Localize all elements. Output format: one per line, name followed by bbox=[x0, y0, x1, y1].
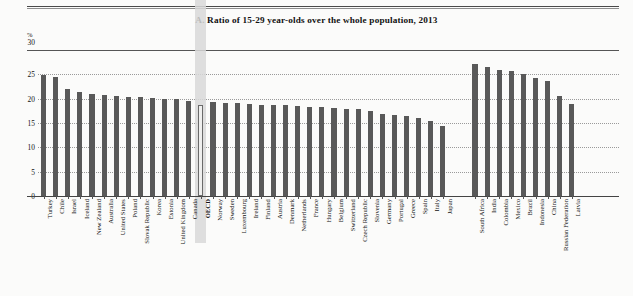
bar-netherlands bbox=[295, 106, 300, 196]
y-tick-label-15: 15 bbox=[28, 119, 35, 128]
x-tick-india bbox=[487, 196, 488, 199]
x-tick-france bbox=[310, 196, 311, 199]
x-tick-estonia bbox=[165, 196, 166, 199]
x-axis-label-belgium: Belgium bbox=[337, 199, 344, 222]
bar-united-kingdom bbox=[174, 99, 179, 196]
x-axis-labels: TurkeyChileIsraelIcelandNew ZealandAustr… bbox=[38, 199, 619, 294]
bar-india bbox=[485, 67, 490, 196]
x-tick-belgium bbox=[334, 196, 335, 199]
bar-united-states bbox=[114, 96, 119, 196]
x-tick-czech-republic bbox=[358, 196, 359, 199]
x-tick-slovenia bbox=[370, 196, 371, 199]
x-axis-label-australia: Australia bbox=[107, 199, 114, 224]
x-tick-united-kingdom bbox=[177, 196, 178, 199]
bar-italy bbox=[428, 121, 433, 196]
x-tick-switzerland bbox=[346, 196, 347, 199]
x-axis-label-russian-federation: Russian Federation bbox=[562, 199, 569, 251]
bar-slovenia bbox=[368, 111, 373, 196]
x-axis-label-japan: Japan bbox=[446, 199, 453, 214]
y-tick-label-25: 25 bbox=[28, 70, 35, 79]
bar-portugal bbox=[392, 115, 397, 196]
x-axis-label-chile: Chile bbox=[58, 199, 65, 214]
bar-chile bbox=[53, 77, 58, 196]
x-tick-austria bbox=[274, 196, 275, 199]
x-axis-label-italy: Italy bbox=[433, 199, 440, 211]
bar-finland bbox=[259, 105, 264, 196]
x-axis-label-brazil: Brazil bbox=[526, 199, 533, 216]
x-axis-label-new-zealand: New Zealand bbox=[95, 199, 102, 235]
x-tick-ireland bbox=[249, 196, 250, 199]
x-tick-australia bbox=[104, 196, 105, 199]
bar-switzerland bbox=[344, 109, 349, 196]
y-tick-label-30: 30 bbox=[28, 38, 35, 47]
x-axis-label-greece: Greece bbox=[409, 199, 416, 218]
x-tick-china bbox=[548, 196, 549, 199]
bar-sweden bbox=[223, 103, 228, 196]
bar-new-zealand bbox=[89, 94, 94, 196]
x-tick-poland bbox=[128, 196, 129, 199]
bar-greece bbox=[404, 116, 409, 196]
bar-france bbox=[307, 107, 312, 196]
x-tick-united-states bbox=[116, 196, 117, 199]
bar-luxembourg bbox=[235, 103, 240, 196]
x-tick-spain bbox=[419, 196, 420, 199]
x-axis-label-denmark: Denmark bbox=[288, 199, 295, 224]
x-axis-label-iceland: Iceland bbox=[83, 199, 90, 219]
bar-czech-republic bbox=[356, 109, 361, 196]
x-axis-label-ireland: Ireland bbox=[252, 199, 259, 218]
x-tick-latvia bbox=[572, 196, 573, 199]
x-axis-label-slovak-republic: Slovak Republic bbox=[143, 199, 150, 244]
x-axis-label-slovenia: Slovenia bbox=[373, 199, 380, 223]
x-tick-new-zealand bbox=[92, 196, 93, 199]
x-axis-label-colombia: Colombia bbox=[502, 199, 509, 226]
x-axis-label-norway: Norway bbox=[216, 199, 223, 221]
x-tick-mexico bbox=[511, 196, 512, 199]
bar-south-africa bbox=[472, 64, 477, 196]
x-tick-norway bbox=[213, 196, 214, 199]
x-axis-label-switzerland: Switzerland bbox=[349, 199, 356, 231]
x-axis-label-canada: Canada bbox=[191, 199, 198, 219]
bar-mexico bbox=[509, 71, 514, 196]
x-tick-indonesia bbox=[536, 196, 537, 199]
x-tick-canada bbox=[189, 196, 190, 199]
bar-slovak-republic bbox=[138, 97, 143, 196]
x-axis-label-india: India bbox=[490, 199, 497, 213]
x-axis-label-oecd: OECD bbox=[204, 199, 211, 218]
x-tick-korea bbox=[153, 196, 154, 199]
x-axis-label-south-africa: South Africa bbox=[478, 199, 485, 233]
x-axis-label-germany: Germany bbox=[385, 199, 392, 224]
bar-estonia bbox=[162, 99, 167, 196]
bar-brazil bbox=[521, 74, 526, 196]
page-top-rule bbox=[27, 6, 619, 7]
x-axis-label-israel: Israel bbox=[70, 199, 77, 214]
bar-denmark bbox=[283, 105, 288, 196]
x-tick-finland bbox=[261, 196, 262, 199]
bar-colombia bbox=[497, 70, 502, 196]
bar-spain bbox=[416, 118, 421, 196]
chart-title: A. Ratio of 15-29 year-olds over the who… bbox=[0, 15, 633, 25]
bar-korea bbox=[150, 98, 155, 196]
x-axis-label-poland: Poland bbox=[131, 199, 138, 218]
x-tick-brazil bbox=[523, 196, 524, 199]
x-axis-label-mexico: Mexico bbox=[514, 199, 521, 220]
bar-germany bbox=[380, 114, 385, 196]
x-axis-label-sweden: Sweden bbox=[228, 199, 235, 220]
bar-norway bbox=[210, 102, 215, 196]
x-tick-iceland bbox=[80, 196, 81, 199]
y-tick-label-20: 20 bbox=[28, 94, 35, 103]
bar-japan bbox=[440, 126, 445, 196]
x-tick-italy bbox=[431, 196, 432, 199]
x-axis-label-spain: Spain bbox=[421, 199, 428, 214]
x-axis-label-hungary: Hungary bbox=[325, 199, 332, 223]
y-tick-label-5: 5 bbox=[31, 167, 35, 176]
x-axis-label-portugal: Portugal bbox=[397, 199, 404, 222]
x-tick-oecd bbox=[201, 196, 202, 199]
x-tick-hungary bbox=[322, 196, 323, 199]
x-axis-label-netherlands: Netherlands bbox=[300, 199, 307, 232]
x-tick-netherlands bbox=[298, 196, 299, 199]
bar-turkey bbox=[41, 75, 46, 196]
bar-series bbox=[38, 50, 619, 196]
y-tick-label-10: 10 bbox=[28, 143, 35, 152]
x-tick-south-africa bbox=[475, 196, 476, 199]
x-tick-greece bbox=[407, 196, 408, 199]
